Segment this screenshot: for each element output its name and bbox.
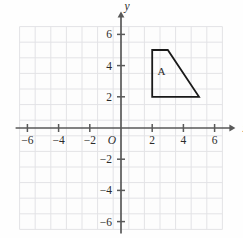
y-tick-label: 4 bbox=[106, 60, 112, 72]
y-tick-label: −2 bbox=[100, 153, 112, 165]
coordinate-plane-svg: −6−4−2246642−2−4−6 Oxy A bbox=[0, 0, 243, 238]
x-tick-label: 2 bbox=[149, 134, 155, 146]
coordinate-plane-figure: −6−4−2246642−2−4−6 Oxy A bbox=[0, 0, 243, 238]
x-tick-label: 6 bbox=[212, 134, 218, 146]
x-tick-label: −2 bbox=[84, 134, 96, 146]
origin-label: O bbox=[108, 134, 117, 146]
y-axis-label: y bbox=[123, 0, 130, 13]
x-tick-label: −6 bbox=[21, 134, 33, 146]
y-tick-label: 2 bbox=[106, 91, 112, 103]
y-tick-label: −6 bbox=[100, 216, 112, 228]
y-tick-label: 6 bbox=[106, 28, 112, 40]
x-tick-label: −4 bbox=[52, 134, 64, 146]
x-tick-label: 4 bbox=[181, 134, 187, 146]
x-axis-label: x bbox=[242, 122, 243, 134]
shape-label-a: A bbox=[158, 65, 166, 77]
y-tick-label: −4 bbox=[100, 184, 112, 196]
